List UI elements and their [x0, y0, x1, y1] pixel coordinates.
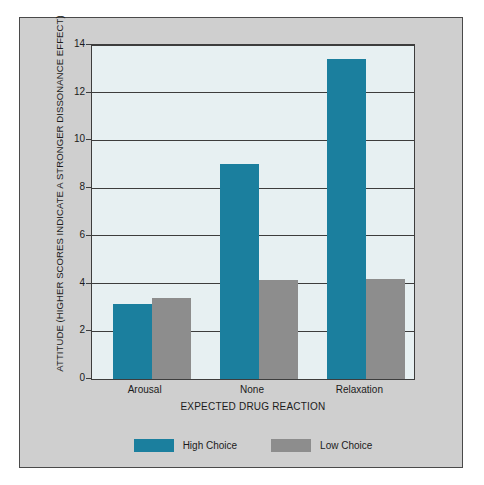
legend-entry-high-choice: High Choice [134, 439, 237, 452]
y-tick-mark [86, 92, 91, 93]
gridline [92, 45, 414, 46]
y-tick-mark [86, 187, 91, 188]
y-tick-label: 14 [53, 38, 85, 49]
x-tick-label-relaxation: Relaxation [306, 384, 413, 395]
y-tick-mark [86, 44, 91, 45]
bar-none-low-choice [259, 280, 298, 379]
y-tick-mark [86, 139, 91, 140]
y-tick-mark [86, 330, 91, 331]
y-tick-label: 6 [53, 229, 85, 240]
plot-inner [92, 45, 414, 379]
x-tick-label-arousal: Arousal [91, 384, 198, 395]
legend-swatch-high-choice [134, 439, 174, 452]
y-tick-label: 4 [53, 277, 85, 288]
x-tick-label-none: None [198, 384, 305, 395]
bar-none-high-choice [220, 164, 259, 379]
y-tick-label: 12 [53, 86, 85, 97]
y-tick-label: 2 [53, 324, 85, 335]
x-axis-title: EXPECTED DRUG REACTION [91, 401, 415, 412]
y-tick-mark [86, 235, 91, 236]
y-tick-label: 10 [53, 133, 85, 144]
y-tick-label: 8 [53, 181, 85, 192]
legend-swatch-low-choice [271, 439, 311, 452]
bar-arousal-high-choice [113, 304, 152, 379]
y-axis-title: ATTITUDE (HIGHER SCORES INDICATE A STRON… [54, 14, 65, 374]
chart-figure: ATTITUDE (HIGHER SCORES INDICATE A STRON… [0, 0, 484, 485]
y-tick-label: 0 [53, 372, 85, 383]
figure-panel: ATTITUDE (HIGHER SCORES INDICATE A STRON… [19, 17, 463, 468]
legend-label: High Choice [183, 440, 237, 451]
bar-arousal-low-choice [152, 298, 191, 379]
plot-area [91, 44, 415, 380]
y-tick-mark [86, 283, 91, 284]
chart-legend: High ChoiceLow Choice [91, 439, 415, 452]
y-tick-mark [86, 378, 91, 379]
legend-label: Low Choice [320, 440, 372, 451]
bar-relaxation-high-choice [327, 59, 366, 379]
bar-relaxation-low-choice [366, 279, 405, 379]
legend-entry-low-choice: Low Choice [271, 439, 372, 452]
